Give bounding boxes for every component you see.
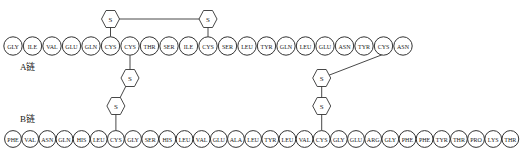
residue-chain_b9: SER bbox=[142, 131, 159, 148]
svg-text:HIS: HIS bbox=[77, 137, 87, 143]
residue-chain_b14: ALA bbox=[228, 131, 245, 148]
residue-chain_a2: ILE bbox=[23, 37, 41, 55]
svg-text:S: S bbox=[114, 103, 118, 111]
sulfur-b19: S bbox=[313, 98, 331, 115]
svg-text:LEU: LEU bbox=[241, 44, 253, 50]
svg-text:GLY: GLY bbox=[127, 137, 139, 143]
svg-text:ASN: ASN bbox=[397, 44, 410, 50]
svg-text:PRO: PRO bbox=[470, 137, 482, 143]
residue-chain_a19: TYR bbox=[355, 37, 373, 55]
svg-text:TYR: TYR bbox=[261, 44, 273, 50]
svg-text:ARG: ARG bbox=[367, 137, 380, 143]
svg-text:CYS: CYS bbox=[316, 137, 328, 143]
residue-chain_b1: PHE bbox=[5, 131, 22, 148]
svg-text:TYR: TYR bbox=[264, 137, 276, 143]
chain-a: GLYILEVALGLUGLNCYSCYSTHRSERILECYSSERLEUT… bbox=[4, 37, 412, 55]
residue-chain_b5: HIS bbox=[73, 131, 90, 148]
svg-text:ASN: ASN bbox=[338, 44, 351, 50]
svg-text:SER: SER bbox=[145, 137, 156, 143]
svg-text:SER: SER bbox=[222, 44, 233, 50]
residue-chain_a6: CYS bbox=[101, 37, 119, 55]
svg-text:S: S bbox=[320, 75, 324, 83]
disulfide-bonds bbox=[111, 19, 384, 131]
bond-a20-stub bbox=[322, 54, 384, 78]
sulfur-a7: S bbox=[121, 70, 139, 87]
residue-chain_a21: ASN bbox=[394, 37, 412, 55]
residue-chain_b2: VAL bbox=[22, 131, 39, 148]
svg-text:GLY: GLY bbox=[333, 137, 345, 143]
svg-text:ILE: ILE bbox=[28, 44, 38, 50]
residue-chain_a14: TYR bbox=[257, 37, 275, 55]
insulin-structure-diagram: GLYILEVALGLUGLNCYSCYSTHRSERILECYSSERLEUT… bbox=[0, 0, 530, 159]
svg-text:LEU: LEU bbox=[300, 44, 312, 50]
svg-text:S: S bbox=[109, 16, 113, 24]
svg-text:THR: THR bbox=[144, 44, 156, 50]
residue-chain_b7: CYS bbox=[108, 131, 125, 148]
svg-text:VAL: VAL bbox=[46, 44, 58, 50]
svg-text:THR: THR bbox=[504, 137, 516, 143]
chain-b-label: B链 bbox=[20, 113, 35, 124]
residue-chain_a20: CYS bbox=[374, 37, 392, 55]
residue-chain_b11: LEU bbox=[176, 131, 193, 148]
svg-text:LEU: LEU bbox=[282, 137, 294, 143]
svg-text:CYS: CYS bbox=[105, 44, 117, 50]
svg-text:GLU: GLU bbox=[213, 137, 226, 143]
svg-text:THR: THR bbox=[453, 137, 465, 143]
svg-text:VAL: VAL bbox=[299, 137, 311, 143]
svg-text:GLU: GLU bbox=[65, 44, 78, 50]
residue-chain_b12: VAL bbox=[193, 131, 210, 148]
residue-chain_b15: LEU bbox=[245, 131, 262, 148]
residue-chain_b29: LYS bbox=[485, 131, 502, 148]
residue-chain_b28: PRO bbox=[468, 131, 485, 148]
svg-text:CYS: CYS bbox=[202, 44, 214, 50]
svg-text:HIS: HIS bbox=[163, 137, 173, 143]
residue-chain_b27: THR bbox=[451, 131, 468, 148]
residue-chain_b22: ARG bbox=[365, 131, 382, 148]
residue-chain_a3: VAL bbox=[43, 37, 61, 55]
svg-text:ILE: ILE bbox=[184, 44, 194, 50]
residue-chain_a11: CYS bbox=[199, 37, 217, 55]
svg-text:LYS: LYS bbox=[488, 137, 499, 143]
residue-chain_b30: THR bbox=[502, 131, 519, 148]
residue-chain_b17: LEU bbox=[279, 131, 296, 148]
svg-text:VAL: VAL bbox=[24, 137, 36, 143]
residue-chain_b10: HIS bbox=[159, 131, 176, 148]
residue-chain_a4: GLU bbox=[62, 37, 80, 55]
residue-chain_b25: PHE bbox=[416, 131, 433, 148]
svg-text:CYS: CYS bbox=[124, 44, 136, 50]
chain-b: PHEVALASNGLNHISLEUCYSGLYSERHISLEUVALGLUA… bbox=[5, 131, 519, 148]
svg-text:LEU: LEU bbox=[247, 137, 259, 143]
svg-text:GLN: GLN bbox=[280, 44, 293, 50]
residue-chain_b19: CYS bbox=[313, 131, 330, 148]
residue-chain_b24: PHE bbox=[399, 131, 416, 148]
svg-text:ASN: ASN bbox=[41, 137, 54, 143]
residue-chain_a10: ILE bbox=[179, 37, 197, 55]
residue-chain_b26: TYR bbox=[433, 131, 450, 148]
svg-text:S: S bbox=[320, 103, 324, 111]
svg-text:VAL: VAL bbox=[196, 137, 208, 143]
svg-text:LEU: LEU bbox=[93, 137, 105, 143]
residue-chain_a9: SER bbox=[160, 37, 178, 55]
sulfur-a6: S bbox=[102, 11, 120, 28]
residue-chain_b23: GLY bbox=[382, 131, 399, 148]
residue-chain_b6: LEU bbox=[90, 131, 107, 148]
residue-chain_a1: GLY bbox=[4, 37, 22, 55]
svg-text:CYS: CYS bbox=[378, 44, 390, 50]
residue-chain_b8: GLY bbox=[125, 131, 142, 148]
svg-text:S: S bbox=[128, 75, 132, 83]
residue-chain_a12: SER bbox=[218, 37, 236, 55]
residue-chain_b18: VAL bbox=[296, 131, 313, 148]
residue-chain_a5: GLN bbox=[82, 37, 100, 55]
svg-text:GLN: GLN bbox=[85, 44, 98, 50]
svg-text:GLU: GLU bbox=[319, 44, 332, 50]
sulfur-atoms: SSSSSS bbox=[102, 11, 331, 115]
svg-text:LEU: LEU bbox=[179, 137, 191, 143]
svg-text:GLY: GLY bbox=[384, 137, 396, 143]
svg-text:PHE: PHE bbox=[7, 137, 19, 143]
svg-text:PHE: PHE bbox=[402, 137, 414, 143]
residue-chain_a18: ASN bbox=[335, 37, 353, 55]
residue-chain_b21: GLU bbox=[348, 131, 365, 148]
svg-text:TYR: TYR bbox=[358, 44, 370, 50]
svg-text:TYR: TYR bbox=[436, 137, 448, 143]
svg-text:ALA: ALA bbox=[230, 137, 243, 143]
